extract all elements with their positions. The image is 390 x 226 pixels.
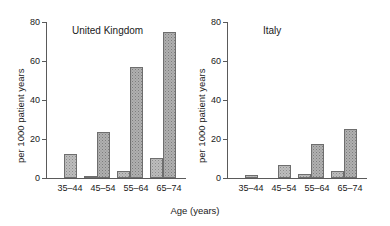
y-axis-italy xyxy=(227,22,228,179)
y-tick-mark-uk-20 xyxy=(42,139,46,140)
bar-uk-55-64-first xyxy=(117,171,130,178)
y-axis-uk xyxy=(46,22,47,179)
y-tick-mark-uk-40 xyxy=(42,100,46,101)
bar-italy-55-64-first xyxy=(298,174,311,178)
x-axis-uk xyxy=(46,178,186,179)
plot-area-italy: Italy 0 20 40 60 80 per 1000 patient yea… xyxy=(195,0,390,226)
x-tick-label-italy-65-74: 65–74 xyxy=(328,183,372,193)
bar-italy-45-54-second xyxy=(278,165,291,178)
y-tick-mark-italy-0 xyxy=(223,178,227,179)
bar-uk-65-74-first xyxy=(150,158,163,178)
panel-title-italy: Italy xyxy=(263,25,281,36)
x-axis-label: Age (years) xyxy=(0,206,390,216)
bar-uk-55-64-second xyxy=(130,67,143,178)
y-tick-mark-uk-60 xyxy=(42,61,46,62)
y-tick-label-uk-60: 60 xyxy=(18,57,40,66)
y-tick-label-uk-80: 80 xyxy=(18,18,40,27)
panel-italy: Italy 0 20 40 60 80 per 1000 patient yea… xyxy=(195,0,390,226)
y-axis-label-italy: per 1000 patient years xyxy=(197,68,207,163)
bar-italy-65-74-first xyxy=(331,171,344,178)
bar-uk-35-44-second xyxy=(64,154,77,178)
panel-united-kingdom: United Kingdom 0 20 40 60 80 per 1000 pa… xyxy=(0,0,195,226)
y-tick-label-italy-60: 60 xyxy=(199,57,221,66)
panel-title-united-kingdom: United Kingdom xyxy=(72,25,143,36)
y-tick-mark-uk-80 xyxy=(42,22,46,23)
bar-italy-55-64-second xyxy=(311,144,324,178)
figure: United Kingdom 0 20 40 60 80 per 1000 pa… xyxy=(0,0,390,226)
y-tick-mark-italy-80 xyxy=(223,22,227,23)
y-tick-mark-italy-60 xyxy=(223,61,227,62)
y-tick-label-italy-80: 80 xyxy=(199,18,221,27)
bar-uk-65-74-second xyxy=(163,32,176,178)
bar-uk-45-54-first xyxy=(84,176,97,178)
bar-italy-35-44-second xyxy=(245,175,258,178)
y-tick-mark-italy-20 xyxy=(223,139,227,140)
y-tick-mark-uk-0 xyxy=(42,178,46,179)
y-tick-label-italy-0: 0 xyxy=(199,174,221,183)
x-axis-italy xyxy=(227,178,367,179)
bar-uk-45-54-second xyxy=(97,132,110,178)
y-tick-label-uk-0: 0 xyxy=(18,174,40,183)
y-axis-label-uk: per 1000 patient years xyxy=(16,68,26,163)
bar-italy-65-74-second xyxy=(344,129,357,178)
x-tick-label-uk-65-74: 65–74 xyxy=(147,183,191,193)
plot-area-united-kingdom: United Kingdom 0 20 40 60 80 per 1000 pa… xyxy=(0,0,195,226)
y-tick-mark-italy-40 xyxy=(223,100,227,101)
